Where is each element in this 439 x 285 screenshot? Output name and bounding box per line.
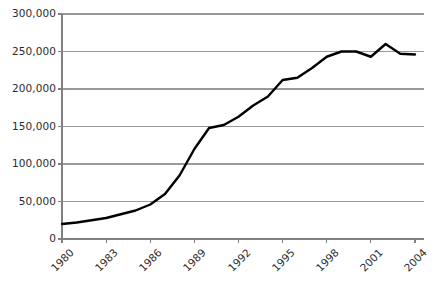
y-axis-tick-label: 0 (0, 233, 56, 244)
y-axis-tick-label: 250,000 (0, 46, 56, 57)
x-axis-tick-label: 1980 (0, 247, 76, 285)
y-axis-tick-label: 200,000 (0, 83, 56, 94)
y-axis-tick-label: 100,000 (0, 158, 56, 169)
y-axis-tick-label: 50,000 (0, 196, 56, 207)
y-axis-tick-label: 150,000 (0, 121, 56, 132)
y-axis-tick-label: 300,000 (0, 8, 56, 19)
tick-label-layer: 050,000100,000150,000200,000250,000300,0… (0, 0, 439, 285)
line-chart: 050,000100,000150,000200,000250,000300,0… (0, 0, 439, 285)
